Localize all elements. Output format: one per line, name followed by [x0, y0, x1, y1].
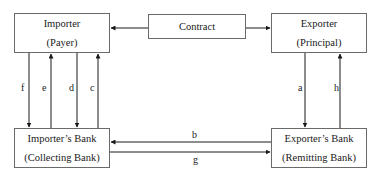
exporter-title: Exporter: [301, 17, 338, 30]
contract-title: Contract: [179, 20, 215, 33]
flow-label-h: h: [334, 83, 339, 93]
exporters-bank-title: Exporter’s Bank: [285, 132, 354, 145]
flow-label-f: f: [21, 83, 24, 93]
importers-bank-role: (Collecting Bank): [24, 151, 100, 164]
flow-label-c: c: [90, 83, 94, 93]
importers-bank-title: Importer’s Bank: [28, 132, 97, 145]
contract-node: Contract: [148, 14, 246, 39]
exporters-bank-node: Exporter’s Bank (Remitting Bank): [271, 128, 367, 168]
importer-title: Importer: [44, 17, 81, 30]
exporters-bank-role: (Remitting Bank): [282, 151, 356, 164]
flow-label-b: b: [192, 130, 197, 140]
flow-label-e: e: [42, 83, 46, 93]
flow-label-g: g: [193, 155, 198, 165]
exporter-role: (Principal): [297, 36, 342, 49]
flow-label-a: a: [298, 83, 302, 93]
flow-label-d: d: [69, 83, 74, 93]
importers-bank-node: Importer’s Bank (Collecting Bank): [14, 128, 110, 168]
importer-role: (Payer): [47, 36, 78, 49]
importer-node: Importer (Payer): [14, 13, 110, 53]
exporter-node: Exporter (Principal): [271, 13, 367, 53]
